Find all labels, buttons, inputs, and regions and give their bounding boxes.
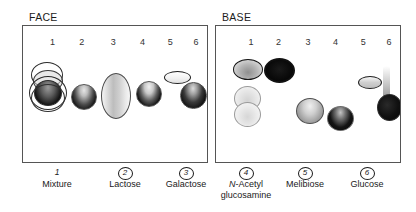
gel-spot-base-lane3 [296,98,324,124]
lane-number-base-4: 4 [326,37,346,47]
panel-title-face: FACE [29,11,58,23]
lane-number-face-6: 6 [186,37,206,47]
gel-spot-face-lane6 [180,82,207,109]
gel-spot-base-lane2 [264,58,295,83]
gel-spot-base-lane5 [358,76,382,89]
gel-panel-face: 1 2 3 4 5 6 [22,25,208,163]
panel-title-base: BASE [222,11,251,23]
lane-number-row-base: 1 2 3 4 5 6 [216,37,400,51]
gel-spot-face-lane5 [164,71,191,84]
gel-figure: FACE BASE 1 2 3 4 5 6 1 2 [0,0,416,212]
lane-number-row-face: 1 2 3 4 5 6 [23,37,207,51]
lane-number-base-6: 6 [379,37,399,47]
lane-number-base-2: 2 [269,37,289,47]
lane-number-face-3: 3 [103,37,123,47]
lane-number-base-3: 3 [298,37,318,47]
legend-badge-6: 6 [324,166,410,179]
gel-panel-base: 1 2 3 4 5 6 [215,25,401,163]
gel-spot-base-lane1-top [233,59,263,80]
lane-number-face-1: 1 [42,37,62,47]
legend-item-6: 6 Glucose [324,166,410,190]
lane-number-base-5: 5 [353,37,373,47]
gel-spot-base-lane1-bottom [234,102,261,127]
gel-spot-face-lane4 [136,81,162,107]
gel-spot-face-lane3 [101,73,131,119]
legend-label-6: Glucose [324,179,410,190]
gel-spot-face-lane1-ring-d [31,84,65,112]
gel-spot-base-lane4 [327,106,354,131]
gel-spot-base-lane6 [377,94,401,121]
lane-number-face-4: 4 [133,37,153,47]
gel-spot-face-lane2 [71,84,97,110]
lane-number-face-2: 2 [72,37,92,47]
lane-number-face-5: 5 [160,37,180,47]
lane-number-base-1: 1 [241,37,261,47]
